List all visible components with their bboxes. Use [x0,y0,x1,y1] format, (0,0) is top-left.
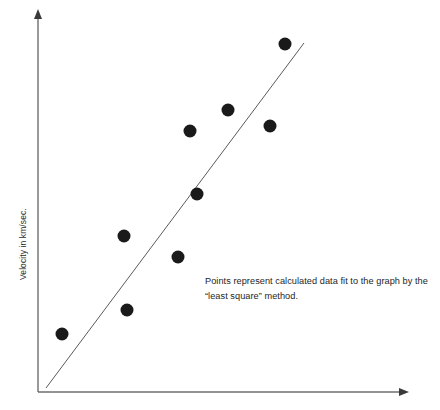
plot-canvas [0,0,440,410]
data-point [279,38,292,51]
data-point [118,230,131,243]
annotation-line-2: “least square” method. [205,289,437,304]
scatter-plot-figure: Velocity in km/sec. Points represent cal… [0,0,440,410]
x-axis-arrowhead-icon [399,388,409,396]
data-point [172,251,185,264]
data-point [222,104,235,117]
annotation-line-1: Points represent calculated data fit to … [205,274,437,289]
data-point [121,304,134,317]
data-point [184,125,197,138]
data-point [191,188,204,201]
annotation-note: Points represent calculated data fit to … [205,274,437,303]
y-axis-label: Velocity in km/sec. [19,160,28,280]
data-point [56,328,69,341]
y-axis-arrowhead-icon [34,9,42,19]
least-squares-fit-line [46,43,304,388]
data-point [264,120,277,133]
